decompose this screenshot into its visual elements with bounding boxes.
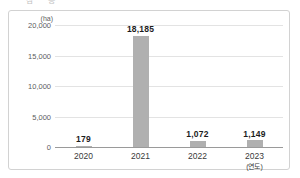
chart-frame: (ha) 20,000 15,000 10,000 5,000 0 179 20…	[8, 10, 290, 170]
y-tick-label-15000: 15,000	[0, 52, 51, 61]
plot-area: (ha) 20,000 15,000 10,000 5,000 0 179 20…	[9, 11, 289, 169]
bar-value-2021: 18,185	[112, 24, 169, 34]
y-tick-label-20000: 20,000	[0, 21, 51, 30]
y-tick-label-0: 0	[0, 143, 51, 152]
x-tick-label-2021: 2021	[112, 151, 169, 161]
bar-group-2020: 179 2020	[55, 11, 112, 169]
y-tick-label-5000: 5,000	[0, 113, 51, 122]
bar-2020[interactable]	[76, 146, 92, 147]
bar-2021[interactable]	[133, 36, 149, 147]
x-tick-label-2022: 2022	[169, 151, 226, 161]
x-tick-label-2020: 2020	[55, 151, 112, 161]
x-tick-label-2023: 2023	[226, 151, 283, 161]
bar-value-2020: 179	[55, 134, 112, 144]
bar-2023[interactable]	[247, 140, 263, 147]
bar-group-2021: 18,185 2021	[112, 11, 169, 169]
x-axis-unit-label: (연도)	[226, 161, 283, 171]
bar-group-2023: 1,149 2023 (연도)	[226, 11, 283, 169]
bar-value-2023: 1,149	[226, 129, 283, 139]
y-tick-label-10000: 10,000	[0, 82, 51, 91]
cut-off-caption: 잠 ㅡ 용	[26, 0, 56, 5]
bar-value-2022: 1,072	[169, 129, 226, 139]
bar-2022[interactable]	[190, 141, 206, 148]
bar-group-2022: 1,072 2022	[169, 11, 226, 169]
